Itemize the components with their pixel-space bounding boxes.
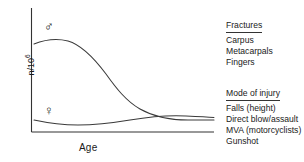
legend-item: Fingers xyxy=(226,57,273,68)
y-axis-label-base: n/10 xyxy=(26,58,36,76)
y-axis-label-exponent: 6 xyxy=(24,54,31,58)
fractures-legend-heading: Fractures xyxy=(226,20,262,33)
figure-container: n/106 Age ♂ ♀ Fractures Carpus Metacarpa… xyxy=(0,0,304,162)
mode-of-injury-legend-heading: Mode of injury xyxy=(226,88,280,101)
legend-item: Carpus xyxy=(226,35,273,46)
y-axis-label: n/106 xyxy=(24,42,38,88)
male-symbol: ♂ xyxy=(44,20,54,33)
female-symbol: ♀ xyxy=(44,104,54,117)
mode-of-injury-legend: Mode of injury Falls (height) Direct blo… xyxy=(226,88,301,148)
legend-item: Falls (height) xyxy=(226,103,301,114)
legend-item: Gunshot xyxy=(226,136,301,147)
legend-item: Direct blow/assault xyxy=(226,114,301,125)
legend-item: Metacarpals xyxy=(226,46,273,57)
fractures-legend: Fractures Carpus Metacarpals Fingers xyxy=(226,20,273,68)
legend-item: MVA (motorcyclists) xyxy=(226,125,301,136)
x-axis-label: Age xyxy=(79,142,97,153)
male-curve xyxy=(34,40,214,120)
